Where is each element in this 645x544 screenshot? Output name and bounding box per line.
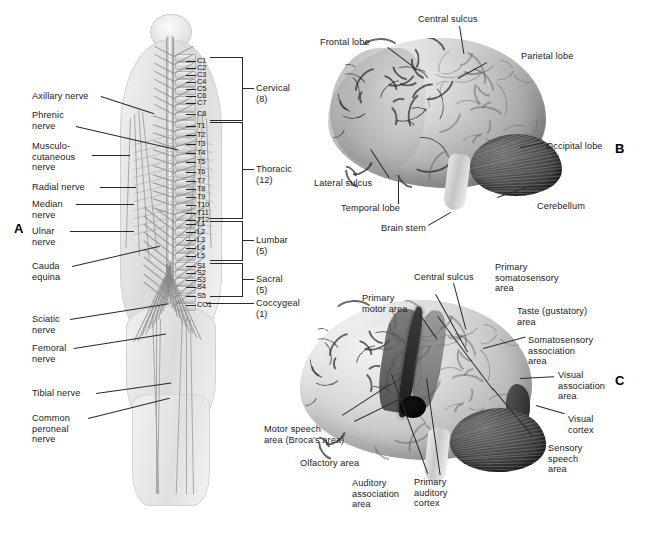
- cerebellar-folium: [450, 468, 546, 472]
- vertebral-tick: [186, 197, 196, 198]
- bracket-tick-sacral: [242, 279, 254, 280]
- leader-musculocutaneous: [92, 155, 130, 156]
- label-sensory-speech-area: Sensory speech area: [548, 443, 582, 475]
- leader-ulnar: [70, 231, 134, 232]
- leader-median: [76, 204, 134, 205]
- vertebral-level-c8: C8: [197, 110, 206, 117]
- cerebellar-folium: [450, 462, 546, 466]
- label-occipital-lobe: Occipital lobe: [546, 141, 603, 152]
- label-musculocutaneous-nerve: Musculo- cutaneous nerve: [32, 141, 75, 173]
- label-cauda-equina: Cauda equina: [32, 261, 60, 282]
- vertebral-level-t6: T6: [197, 168, 205, 175]
- vertebral-level-t4: T4: [197, 149, 205, 156]
- limb-nerve: [190, 319, 194, 494]
- label-tibial-nerve: Tibial nerve: [32, 388, 80, 399]
- leader-temporal-lobe: [398, 180, 399, 204]
- vertebral-tick: [186, 172, 196, 173]
- vertebral-level-l5: L5: [197, 252, 205, 259]
- label-primary-auditory-cortex: Primary auditory cortex: [414, 477, 448, 509]
- leader-brain-stem: [428, 212, 451, 226]
- bracket-tick-cervical: [242, 88, 254, 89]
- bracket-cervical: [210, 57, 243, 121]
- label-cerebellum: Cerebellum: [537, 201, 585, 212]
- label-axillary-nerve: Axillary nerve: [32, 91, 89, 102]
- label-central-sulcus-c: Central sulcus: [414, 272, 474, 283]
- vertebral-tick: [186, 220, 196, 221]
- vertebral-level-s4: S4: [197, 283, 206, 290]
- vertebral-tick: [186, 205, 196, 206]
- vertebral-tick: [186, 96, 196, 97]
- bracket-thoracic: [210, 122, 243, 219]
- label-primary-somatosensory-area: Primary somatosensory area: [495, 262, 559, 294]
- vertebral-tick: [186, 248, 196, 249]
- label-thoracic: Thoracic (12): [256, 164, 292, 185]
- panel-letter-a: A: [14, 221, 23, 236]
- vertebral-tick: [186, 189, 196, 190]
- vertebral-tick: [186, 135, 196, 136]
- label-coccygeal: Coccygeal (1): [256, 298, 300, 319]
- label-visual-association-area: Visual association area: [558, 370, 605, 402]
- label-auditory-association-area: Auditory association area: [352, 478, 399, 510]
- vertebral-tick: [186, 144, 196, 145]
- label-motor-speech-area: Motor speech area (Broca's area): [264, 424, 344, 445]
- bracket-lumbar: [210, 221, 243, 261]
- vertebral-tick: [186, 103, 196, 104]
- panel-letter-b: B: [615, 141, 624, 156]
- vertebral-tick: [186, 232, 196, 233]
- vertebral-level-c7: C7: [197, 99, 206, 106]
- label-central-sulcus-b: Central sulcus: [418, 14, 478, 25]
- vertebral-tick: [186, 224, 196, 225]
- bracket-sacral: [210, 263, 243, 297]
- vertebral-tick: [186, 256, 196, 257]
- gyrus: [328, 120, 348, 141]
- label-olfactory-area: Olfactory area: [300, 458, 359, 469]
- vertebral-tick: [186, 68, 196, 69]
- gyrus: [300, 388, 320, 409]
- gyrus: [510, 59, 542, 86]
- vertebral-tick: [186, 266, 196, 267]
- vertebral-tick: [186, 287, 196, 288]
- cerebellum-c: [450, 408, 546, 472]
- label-lateral-sulcus: Lateral sulcus: [314, 178, 372, 189]
- panel-letter-c: C: [615, 373, 624, 388]
- label-sacral: Sacral (5): [256, 274, 283, 295]
- vertebral-tick: [186, 296, 196, 297]
- label-ulnar-nerve: Ulnar nerve: [32, 226, 55, 247]
- label-taste-gustatory-area: Taste (gustatory) area: [517, 306, 587, 327]
- vertebral-level-t5: T5: [197, 158, 205, 165]
- limb-nerve: [157, 319, 161, 494]
- vertebral-tick: [186, 305, 196, 306]
- bracket-tick-lumbar: [242, 240, 254, 241]
- label-radial-nerve: Radial nerve: [32, 182, 85, 193]
- vertebral-tick: [186, 162, 196, 163]
- vertebral-tick: [186, 240, 196, 241]
- leader-radial: [100, 187, 136, 188]
- label-median-nerve: Median nerve: [32, 199, 63, 220]
- vertebral-tick: [186, 213, 196, 214]
- cerebellar-folium: [470, 192, 562, 195]
- anatomy-figure: A Axillary nerve Phrenic nerve Musculo- …: [0, 0, 645, 544]
- vertebral-tick: [186, 75, 196, 76]
- vertebral-tick: [186, 61, 196, 62]
- limb-nerve: [176, 314, 183, 494]
- vertebral-level-t2: T2: [197, 131, 205, 138]
- vertebral-tick: [186, 89, 196, 90]
- label-cervical: Cervical (8): [256, 83, 290, 104]
- panel-a-spinal-nerves: A Axillary nerve Phrenic nerve Musculo- …: [0, 0, 250, 544]
- label-primary-motor-area: Primary motor area: [362, 293, 407, 314]
- label-phrenic-nerve: Phrenic nerve: [32, 110, 64, 131]
- label-somatosensory-association-area: Somatosensory association area: [528, 335, 593, 367]
- vertebral-level-t3: T3: [197, 140, 205, 147]
- vertebral-tick: [186, 181, 196, 182]
- label-brain-stem: Brain stem: [381, 223, 426, 234]
- vertebral-tick: [186, 153, 196, 154]
- bracket-tick-coccygeal: [206, 303, 254, 304]
- vertebral-level-s5: S5: [197, 292, 206, 299]
- label-temporal-lobe: Temporal lobe: [341, 203, 400, 214]
- vertebral-tick: [186, 82, 196, 83]
- label-femoral-nerve: Femoral nerve: [32, 343, 66, 364]
- vertebral-tick: [186, 273, 196, 274]
- label-parietal-lobe: Parietal lobe: [521, 51, 573, 62]
- vertebral-tick: [186, 126, 196, 127]
- cerebellar-folium: [450, 466, 546, 467]
